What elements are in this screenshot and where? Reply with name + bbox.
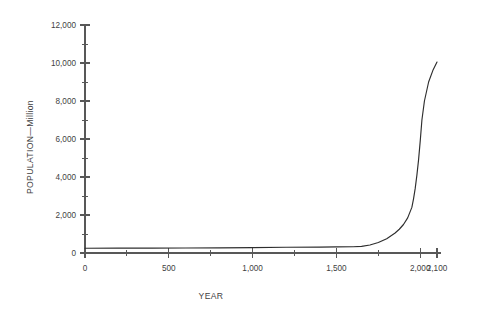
chart-plot-area: 02,0004,0006,0008,00010,00012,000 05001,… [0, 0, 477, 320]
y-tick-label: 6,000 [56, 135, 77, 144]
y-tick-label: 4,000 [56, 173, 77, 182]
population-line-chart: 02,0004,0006,0008,00010,00012,000 05001,… [0, 0, 477, 320]
x-tick-label: 1,500 [326, 264, 347, 273]
data-series-group [85, 62, 437, 248]
x-tick-label: 0 [83, 264, 88, 273]
y-tick-label: 2,000 [56, 211, 77, 220]
y-tick-label: 8,000 [56, 97, 77, 106]
y-tick-label: 10,000 [51, 59, 76, 68]
y-tick-label: 12,000 [51, 21, 76, 30]
x-tick-label: 500 [162, 264, 176, 273]
x-tick-label: 2,100 [427, 264, 448, 273]
population-curve [85, 62, 437, 248]
y-tick-label: 0 [71, 249, 76, 258]
x-tick-label: 1,000 [242, 264, 263, 273]
x-axis-title: YEAR [199, 291, 224, 301]
y-axis-title: POPULATION—Million [25, 100, 35, 194]
x-axis-tick-labels: 05001,0001,5002,0002,100 [83, 264, 448, 273]
y-axis-tick-labels: 02,0004,0006,0008,00010,00012,000 [51, 21, 76, 258]
axes-group [85, 25, 441, 253]
